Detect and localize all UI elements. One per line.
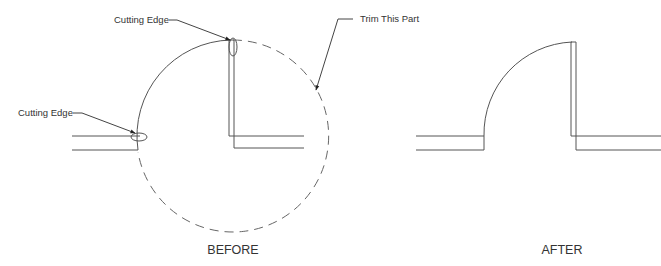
after-drawing: AFTER	[416, 42, 661, 257]
right-wall-after	[571, 136, 661, 150]
trim-diagram: Cutting Edge Cutting Edge Trim This Part…	[0, 0, 661, 266]
label-cutting-edge-left: Cutting Edge	[18, 107, 73, 118]
label-cutting-edge-top: Cutting Edge	[114, 14, 169, 25]
caption-before: BEFORE	[207, 243, 258, 257]
door-swing-arc	[137, 40, 231, 150]
label-trim-this-part: Trim This Part	[360, 13, 419, 24]
cutting-edge-marker-top	[229, 38, 237, 56]
cutting-edge-marker-left	[131, 133, 147, 141]
door-swing-arc-after	[484, 42, 572, 136]
before-drawing: Cutting Edge Cutting Edge Trim This Part…	[18, 13, 419, 257]
left-wall-after	[416, 136, 484, 150]
right-wall	[229, 136, 304, 148]
callout-leaders	[73, 19, 353, 133]
caption-after: AFTER	[542, 243, 583, 257]
door-panel-after	[571, 42, 576, 150]
left-wall	[72, 136, 140, 150]
